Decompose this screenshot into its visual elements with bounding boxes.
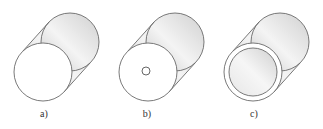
hollow-tube [224, 13, 309, 101]
center-hole [142, 67, 150, 75]
label-a: a) [29, 108, 59, 119]
cylinder-with-hole [119, 13, 204, 101]
solid-cylinder [14, 13, 99, 101]
label-c: c) [239, 108, 269, 119]
label-b: b) [132, 108, 162, 119]
